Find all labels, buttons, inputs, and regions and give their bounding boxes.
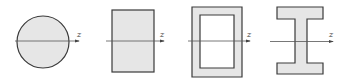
z-axis-label: z <box>328 30 334 39</box>
hollow-box-section: z <box>188 7 252 77</box>
hollow-box-shape <box>192 7 242 77</box>
z-axis-label: z <box>159 30 165 39</box>
circle-section: z <box>15 16 82 68</box>
rectangle-section: z <box>106 10 165 72</box>
i-beam-section: z <box>270 7 334 74</box>
circle-shape <box>17 16 69 68</box>
i-beam-shape <box>277 7 323 74</box>
z-axis-label: z <box>246 30 252 39</box>
z-axis-label: z <box>76 30 82 39</box>
cross-sections-diagram: z z z z <box>0 0 345 84</box>
